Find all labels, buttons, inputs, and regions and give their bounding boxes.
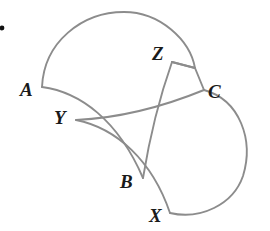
vertex-label-y: Y	[54, 108, 66, 127]
arc-A-to-Z-top	[42, 12, 195, 87]
vertex-label-a: A	[20, 80, 33, 99]
edge-Z-to-C-corner	[172, 62, 204, 90]
curve-Y-to-X-lower	[76, 120, 170, 213]
curve-A-to-B-lower-left	[42, 87, 143, 178]
curve-Y-to-C-upper	[76, 90, 204, 120]
vertex-label-b: B	[120, 172, 133, 191]
figure-strokes	[42, 12, 247, 215]
vertex-label-x: X	[149, 206, 162, 225]
arc-C-to-X-right	[170, 90, 247, 215]
vertex-label-c: C	[208, 82, 221, 101]
geometry-figure: A B C X Y Z	[0, 0, 270, 231]
bullet-dot	[0, 26, 4, 31]
figure-canvas	[0, 0, 270, 231]
curve-Z-to-B-inner	[143, 62, 172, 178]
vertex-label-z: Z	[152, 44, 164, 63]
